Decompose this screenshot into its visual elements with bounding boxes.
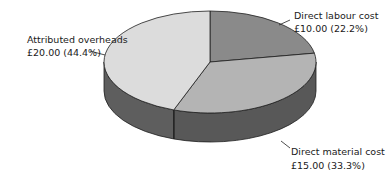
pie-top-faces: [104, 11, 316, 113]
label-direct-labour-value: £10.00 (22.2%): [294, 23, 368, 34]
label-attributed-overheads-value: £20.00 (44.4%): [27, 47, 101, 58]
pie-chart: Attributed overheads £20.00 (44.4%) Dire…: [0, 0, 392, 182]
label-direct-material-value: £15.00 (33.3%): [291, 160, 365, 171]
label-direct-material-name: Direct material cost: [291, 146, 385, 157]
label-attributed-overheads-name: Attributed overheads: [27, 34, 128, 45]
leader-direct-labour: [279, 20, 290, 25]
label-direct-labour-name: Direct labour cost: [294, 10, 379, 21]
leader-direct-material: [281, 141, 290, 148]
